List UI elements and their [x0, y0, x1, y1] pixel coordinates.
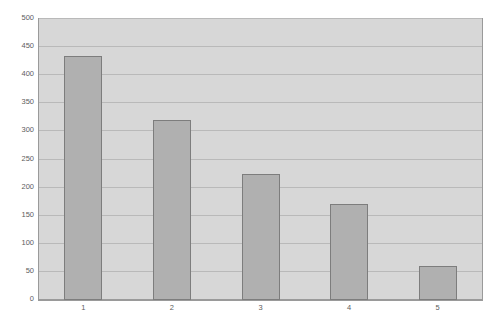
y-tick-label: 250	[21, 155, 34, 163]
y-tick-label: 500	[21, 14, 34, 22]
x-tick-label: 4	[347, 304, 351, 312]
y-tick-label: 300	[21, 127, 34, 135]
x-tick-label: 1	[81, 304, 85, 312]
bar	[64, 56, 102, 300]
y-tick-label: 200	[21, 183, 34, 191]
bar	[419, 266, 457, 300]
y-tick-label: 0	[30, 295, 34, 303]
bar-chart: 050100150200250300350400450500 12345	[0, 0, 491, 333]
y-tick-label: 50	[26, 267, 34, 275]
x-tick-label: 3	[258, 304, 262, 312]
x-axis: 12345	[39, 304, 482, 324]
bar	[153, 120, 191, 300]
y-tick-label: 450	[21, 42, 34, 50]
bars-layer	[39, 19, 482, 300]
y-axis: 050100150200250300350400450500	[0, 18, 34, 301]
y-tick-label: 100	[21, 239, 34, 247]
bar	[242, 174, 280, 300]
x-tick-label: 2	[170, 304, 174, 312]
y-tick-label: 400	[21, 70, 34, 78]
x-tick-label: 5	[436, 304, 440, 312]
y-tick-label: 150	[21, 211, 34, 219]
y-tick-label: 350	[21, 99, 34, 107]
bar	[330, 204, 368, 300]
